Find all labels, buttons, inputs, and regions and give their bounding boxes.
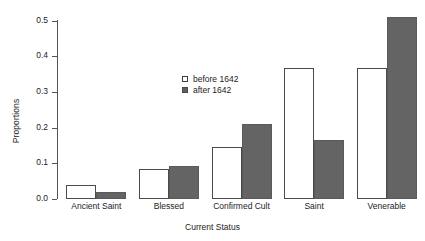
bar-after-1642 (314, 140, 344, 199)
y-tick-mark (52, 92, 57, 93)
bar-after-1642 (387, 17, 417, 199)
legend-item-before: before 1642 (182, 73, 238, 84)
bar-before-1642 (357, 68, 387, 199)
bar-group (66, 14, 126, 199)
y-tick-label: 0.4 (20, 50, 48, 60)
bar-group (284, 14, 344, 199)
legend-label-before: before 1642 (193, 74, 238, 84)
bar-after-1642 (242, 124, 272, 199)
bar-group (212, 14, 272, 199)
y-tick-label: 0.5 (20, 15, 48, 25)
legend-item-after: after 1642 (182, 84, 238, 95)
y-tick-mark (52, 163, 57, 164)
y-tick-label: 0.1 (20, 157, 48, 167)
legend-label-after: after 1642 (193, 85, 231, 95)
bar-group (357, 14, 417, 199)
bar-before-1642 (212, 147, 242, 199)
legend-swatch-before-icon (182, 76, 188, 82)
chart-legend: before 1642 after 1642 (182, 73, 238, 95)
y-tick-mark (52, 128, 57, 129)
y-tick-mark (52, 199, 57, 200)
y-axis-title-text: Proportions (11, 98, 21, 143)
legend-swatch-after-icon (182, 87, 188, 93)
bar-after-1642 (96, 192, 126, 199)
y-tick-mark (52, 21, 57, 22)
bar-before-1642 (284, 68, 314, 199)
bar-after-1642 (169, 166, 199, 199)
y-tick-label: 0.3 (20, 86, 48, 96)
bar-group (139, 14, 199, 199)
plot-area (58, 14, 421, 199)
x-axis-label: Venerable (327, 201, 425, 211)
bar-before-1642 (139, 169, 169, 199)
y-tick-mark (52, 56, 57, 57)
x-axis-title: Current Status (0, 222, 425, 232)
y-axis-title: Proportions (6, 0, 26, 241)
bar-chart: Proportions 0.00.10.20.30.40.5 Ancient S… (0, 0, 425, 241)
y-tick-label: 0.2 (20, 122, 48, 132)
bar-before-1642 (66, 185, 96, 199)
